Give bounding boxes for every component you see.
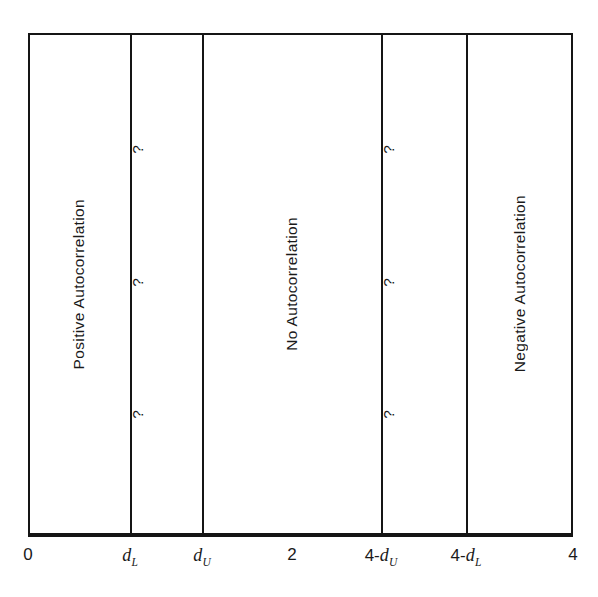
axis-tick-dl-sub: L	[131, 556, 137, 568]
axis-tick-4du-lead: 4-	[365, 546, 380, 565]
zone-inconclusive-upper: ? ? ?	[381, 33, 466, 535]
zone-none-label: No Autocorrelation	[283, 217, 301, 351]
zone-no-autocorrelation: No Autocorrelation	[202, 33, 381, 535]
axis-tick-0-text: 0	[23, 545, 32, 564]
axis-tick-dl: dL	[122, 545, 138, 568]
axis-tick-4-text: 4	[568, 545, 577, 564]
x-axis-line	[28, 534, 573, 537]
question-mark-icon: ?	[381, 145, 466, 154]
zone-positive-autocorrelation: Positive Autocorrelation	[28, 33, 130, 535]
axis-tick-2: 2	[287, 545, 296, 565]
axis-tick-4du: 4-dU	[365, 545, 398, 568]
axis-tick-du-sub: U	[202, 556, 210, 568]
zone-negative-autocorrelation: Negative Autocorrelation	[466, 33, 573, 535]
question-mark-icon: ?	[130, 145, 202, 154]
axis-tick-du: dU	[193, 545, 211, 568]
axis-tick-4: 4	[568, 545, 577, 565]
zone-positive-label: Positive Autocorrelation	[70, 199, 88, 369]
axis-tick-4dl: 4-dL	[451, 545, 482, 568]
axis-tick-du-var: d	[193, 545, 202, 565]
axis-tick-4dl-sub: L	[475, 556, 481, 568]
durbin-watson-decision-chart: Positive Autocorrelation ? ? ? No Autoco…	[0, 0, 598, 597]
zone-negative-label: Negative Autocorrelation	[511, 195, 529, 372]
axis-tick-4dl-var: d	[466, 545, 475, 565]
axis-tick-4dl-lead: 4-	[451, 546, 466, 565]
axis-tick-4du-var: d	[380, 545, 389, 565]
zone-inconclusive-lower: ? ? ?	[130, 33, 202, 535]
axis-tick-4du-sub: U	[389, 556, 397, 568]
axis-tick-dl-var: d	[122, 545, 131, 565]
axis-tick-2-text: 2	[287, 545, 296, 564]
question-mark-icon: ?	[130, 278, 202, 287]
axis-tick-0: 0	[23, 545, 32, 565]
question-mark-icon: ?	[381, 278, 466, 287]
question-mark-icon: ?	[130, 410, 202, 419]
question-mark-icon: ?	[381, 410, 466, 419]
